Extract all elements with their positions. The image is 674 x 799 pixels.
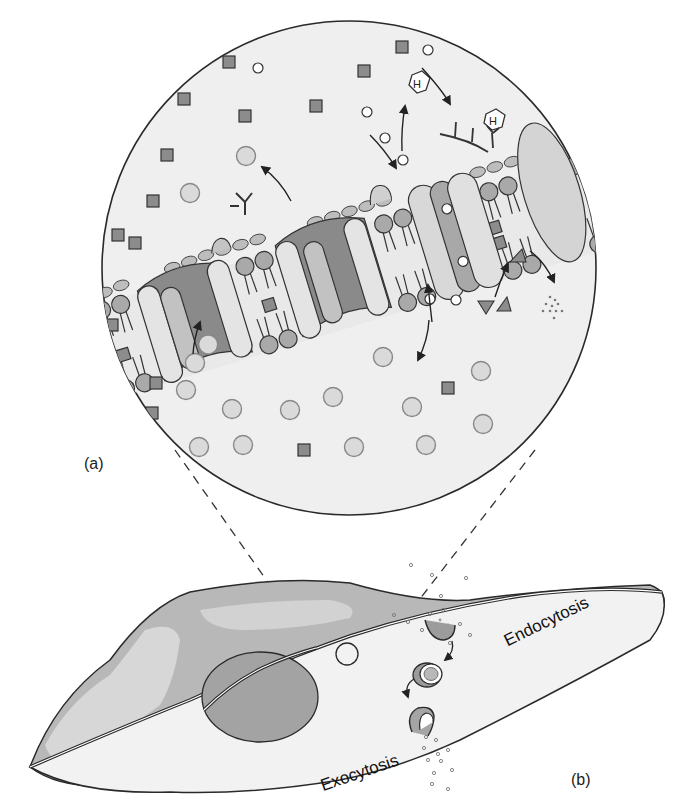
svg-text:H: H bbox=[413, 78, 421, 90]
zoom-circle: H H bbox=[48, 21, 664, 515]
membrane-transport-diagram: H H bbox=[0, 0, 674, 799]
svg-text:H: H bbox=[489, 115, 497, 127]
cell-drawing bbox=[30, 563, 664, 792]
panel-a-label: (a) bbox=[84, 455, 104, 473]
vesicle bbox=[413, 663, 442, 687]
exocytosis-pit bbox=[410, 707, 434, 736]
panel-b-label: (b) bbox=[571, 771, 591, 789]
